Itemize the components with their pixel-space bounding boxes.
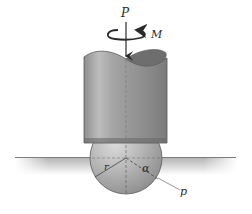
angle-label-alpha: α bbox=[142, 163, 149, 174]
moment-label-M: M bbox=[151, 29, 162, 40]
pressure-leader-line bbox=[158, 178, 180, 190]
diagram-canvas bbox=[0, 0, 252, 214]
force-label-P: P bbox=[121, 7, 129, 19]
rod-sphere-contact-diagram: P M r α p bbox=[0, 0, 252, 214]
radius-label-r: r bbox=[104, 162, 109, 172]
pressure-label-p: p bbox=[180, 186, 187, 197]
rod-cylinder bbox=[84, 49, 167, 143]
